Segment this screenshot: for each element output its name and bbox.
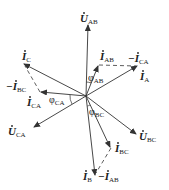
- label-u-ca: UCA: [8, 125, 26, 139]
- label-neg-i-ca: −ICA: [128, 52, 149, 66]
- label-u-ab: UAB: [80, 12, 98, 26]
- label-i-ab: IAB: [99, 50, 114, 64]
- dot-neg-i-bc: [15, 80, 17, 82]
- label-neg-i-ab: −IAB: [98, 170, 119, 184]
- dashed-neg-i-ca: [99, 65, 136, 66]
- label-u-bc: UBC: [139, 130, 157, 144]
- dot-i-a: [142, 70, 144, 72]
- dot-neg-i-ca: [137, 52, 139, 54]
- dot-neg-i-ab: [107, 170, 109, 172]
- phasor-u-ab: [86, 25, 88, 96]
- label-i-bc: IBC: [114, 142, 129, 156]
- label-i-a: IA: [139, 70, 149, 84]
- label-i-ca: ICA: [26, 96, 41, 110]
- dot-u-ab: [83, 12, 85, 14]
- dashed-neg-i-bc: [25, 66, 40, 92]
- dot-i-c: [24, 50, 26, 52]
- label-neg-i-bc: −IBC: [6, 80, 27, 94]
- label-i-b: IB: [82, 170, 92, 184]
- dot-i-ab: [102, 50, 104, 52]
- phasor-i-bc: [86, 96, 110, 147]
- angle-arc-phi-ca: [70, 95, 72, 104]
- dot-i-bc: [117, 142, 119, 144]
- dot-i-ca: [29, 96, 31, 98]
- dot-i-b: [85, 170, 87, 172]
- label-phi-ca: φCA: [49, 94, 65, 107]
- phasor-diagram: UAB UBC UCA IA IB IC IAB IBC ICA −ICA −: [0, 0, 169, 190]
- dot-u-bc: [142, 130, 144, 132]
- label-i-c: IC: [21, 50, 31, 64]
- phasor-i-c: [24, 64, 86, 96]
- dot-u-ca: [11, 125, 13, 127]
